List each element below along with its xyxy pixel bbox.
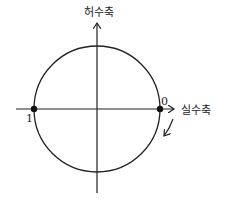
imaginary-axis-label: 허수축	[84, 6, 114, 19]
real-axis-label: 실수축	[181, 104, 211, 117]
complex-plane-diagram: 허수축 실수축 1 0	[0, 0, 229, 209]
rotation-arrow-icon	[164, 119, 173, 136]
point-zero-label: 0	[161, 95, 168, 108]
point-one-label: 1	[26, 112, 33, 125]
